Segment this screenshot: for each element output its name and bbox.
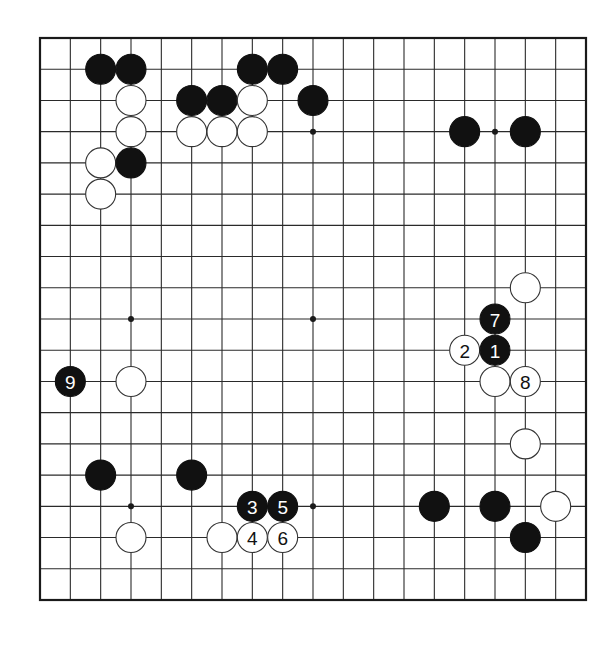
white-stone [177, 117, 207, 147]
black-stone [177, 460, 207, 490]
white-stone [510, 429, 540, 459]
black-stone-icon [177, 85, 207, 115]
white-stone: 4 [237, 523, 267, 553]
white-stone-icon [86, 148, 116, 178]
black-stone-icon [298, 85, 328, 115]
black-stone: 1 [480, 335, 510, 365]
white-stone [237, 117, 267, 147]
black-stone-icon [450, 117, 480, 147]
black-stone [86, 54, 116, 84]
black-stone [510, 117, 540, 147]
black-stone: 5 [268, 491, 298, 521]
black-stone [237, 54, 267, 84]
move-number-label: 5 [277, 497, 288, 518]
star-point-icon [310, 129, 316, 135]
black-stone-icon [480, 491, 510, 521]
black-stone-icon [177, 460, 207, 490]
black-stone [268, 54, 298, 84]
white-stone-icon [116, 366, 146, 396]
star-point-icon [310, 316, 316, 322]
star-point-icon [310, 503, 316, 509]
black-stone-icon [510, 117, 540, 147]
move-number-label: 6 [277, 528, 288, 549]
black-stone [177, 85, 207, 115]
star-point-icon [492, 129, 498, 135]
white-stone [86, 148, 116, 178]
black-stone [86, 460, 116, 490]
black-stone [116, 54, 146, 84]
black-stone-icon [207, 85, 237, 115]
black-stone-icon [419, 491, 449, 521]
white-stone-icon [207, 117, 237, 147]
black-stone-icon [268, 54, 298, 84]
white-stone [510, 273, 540, 303]
black-stone-icon [116, 54, 146, 84]
black-stone [480, 491, 510, 521]
move-number-label: 4 [247, 528, 258, 549]
white-stone-icon [86, 179, 116, 209]
white-stone [86, 179, 116, 209]
white-stone-icon [480, 366, 510, 396]
white-stone [207, 523, 237, 553]
move-number-label: 9 [65, 372, 76, 393]
white-stone [116, 85, 146, 115]
white-stone [116, 523, 146, 553]
go-board: 721983546 [0, 0, 616, 646]
move-number-label: 1 [490, 341, 501, 362]
black-stone [207, 85, 237, 115]
black-stone-icon [116, 148, 146, 178]
move-number-label: 2 [459, 341, 470, 362]
white-stone [207, 117, 237, 147]
white-stone-icon [237, 85, 267, 115]
white-stone [237, 85, 267, 115]
black-stone: 7 [480, 304, 510, 334]
black-stone-icon [86, 54, 116, 84]
black-stone-icon [86, 460, 116, 490]
white-stone-icon [237, 117, 267, 147]
white-stone-icon [510, 273, 540, 303]
move-number-label: 7 [490, 310, 501, 331]
white-stone-icon [541, 491, 571, 521]
black-stone [298, 85, 328, 115]
white-stone-icon [177, 117, 207, 147]
white-stone: 8 [510, 366, 540, 396]
white-stone: 6 [268, 523, 298, 553]
black-stone: 3 [237, 491, 267, 521]
white-stone [116, 117, 146, 147]
white-stone-icon [116, 523, 146, 553]
black-stone-icon [237, 54, 267, 84]
black-stone [419, 491, 449, 521]
move-number-label: 3 [247, 497, 258, 518]
black-stone [116, 148, 146, 178]
black-stone [450, 117, 480, 147]
white-stone-icon [116, 117, 146, 147]
white-stone-icon [116, 85, 146, 115]
white-stone-icon [510, 429, 540, 459]
black-stone: 9 [55, 366, 85, 396]
black-stone-icon [510, 523, 540, 553]
go-board-diagram: 721983546 [0, 0, 616, 646]
white-stone [116, 366, 146, 396]
star-point-icon [128, 503, 134, 509]
star-point-icon [128, 316, 134, 322]
white-stone [541, 491, 571, 521]
white-stone-icon [207, 523, 237, 553]
white-stone: 2 [450, 335, 480, 365]
white-stone [480, 366, 510, 396]
black-stone [510, 523, 540, 553]
move-number-label: 8 [520, 372, 531, 393]
